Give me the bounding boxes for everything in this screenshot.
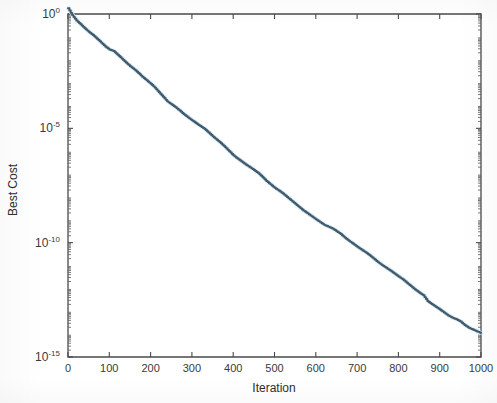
convergence-plot-figure: 01002003004005006007008009001000 10010-5… [0,0,497,403]
y-tick-label: 10-5 [40,120,61,135]
x-tick-label: 800 [389,362,407,374]
x-tick-label: 200 [141,362,159,374]
x-tick-label: 900 [431,362,449,374]
y-tick-label: 10-10 [35,235,60,250]
y-axis-title: Best Cost [6,163,20,216]
chart-canvas: 01002003004005006007008009001000 10010-5… [0,0,497,403]
x-axis-tick-labels: 01002003004005006007008009001000 [65,362,493,374]
x-tick-label: 1000 [469,362,493,374]
y-axis-tick-labels: 10010-510-1010-15 [35,6,60,364]
x-tick-label: 300 [183,362,201,374]
x-tick-label: 700 [348,362,366,374]
x-tick-label: 400 [224,362,242,374]
x-tick-label: 0 [65,362,71,374]
y-tick-label: 10-15 [35,349,60,364]
x-tick-label: 100 [100,362,118,374]
x-axis-title: Iteration [252,381,295,395]
y-tick-label: 100 [42,6,60,21]
x-tick-label: 500 [265,362,283,374]
x-tick-label: 600 [307,362,325,374]
